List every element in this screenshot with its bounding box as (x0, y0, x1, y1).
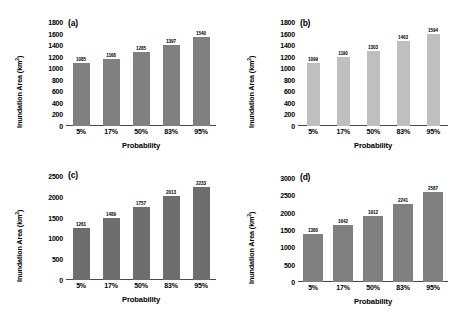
panel-b-bar (397, 41, 410, 126)
panel-d-y-tick-label: 0 (291, 279, 298, 286)
panel-d-x-axis-title: Probability (298, 297, 448, 306)
figure-four-panel-bar-charts: (a) Inundation Area (km2) 02004006008001… (0, 0, 463, 320)
panel-d-bar-value-label: 2587 (428, 186, 438, 191)
panel-c-bar (163, 196, 180, 280)
panel-d-bar-value-label: 2241 (398, 198, 408, 203)
panel-a-bar-group: 1540 (193, 22, 210, 126)
panel-c-y-tick-label: 0 (59, 277, 66, 284)
panel-c-bar-group: 2233 (193, 176, 210, 280)
panel-a-bars: 10851168128513971540 (66, 22, 216, 126)
panel-c-bar (73, 228, 90, 280)
panel-b-bar-group: 1099 (307, 22, 320, 126)
panel-a-y-tick-label: 1600 (48, 30, 66, 37)
panel-d-bar-value-label: 1642 (338, 219, 348, 224)
panel-c-x-tick-label: 5% (73, 282, 90, 289)
panel-b-bar-group: 1303 (367, 22, 380, 126)
panel-d-y-axis-title-text: Inundation Area (km (247, 217, 256, 284)
panel-b-y-tick-label: 200 (284, 111, 298, 118)
panel-d-bar-group: 2587 (423, 178, 443, 282)
panel-b-x-axis-title: Probability (298, 141, 448, 150)
panel-d-bars: 13801642191222412587 (298, 178, 448, 282)
panel-b-y-tick-label: 800 (284, 76, 298, 83)
panel-d-bar (303, 234, 323, 282)
panel-b-bar (307, 63, 320, 126)
panel-c-bar-value-label: 1261 (76, 222, 86, 227)
panel-a-bar-value-label: 1168 (106, 53, 116, 58)
panel-a-y-axis-title-text: Inundation Area (km (15, 61, 24, 128)
panel-b-bar (367, 51, 380, 126)
panel-a-bar-group: 1085 (73, 22, 90, 126)
panel-a-x-tick-labels: 5%17%50%83%95% (66, 128, 216, 135)
panel-d-bar-group: 1642 (333, 178, 353, 282)
panel-a-bar (73, 63, 90, 126)
panel-c-bar-group: 2013 (163, 176, 180, 280)
panel-c-bar-group: 1489 (103, 176, 120, 280)
panel-c-bar-value-label: 1489 (106, 212, 116, 217)
panel-b-x-tick-label: 50% (367, 128, 380, 135)
panel-d-y-axis-title: Inundation Area (km2) (246, 212, 256, 284)
panel-a-bar-value-label: 1397 (166, 39, 176, 44)
panel-b-y-axis-title-exponent: 2 (246, 58, 252, 61)
panel-a-y-tick-label: 1800 (48, 19, 66, 26)
panel-a-x-axis-title: Probability (66, 141, 216, 150)
panel-c-bar-value-label: 2013 (166, 190, 176, 195)
panel-a-y-tick-label: 1200 (48, 53, 66, 60)
panel-a-bar (163, 45, 180, 126)
panel-c-bar (133, 207, 150, 280)
panel-b-bar (337, 57, 350, 126)
panel-b-y-axis-title-text: Inundation Area (km (247, 61, 256, 128)
panel-d-bar (363, 216, 383, 282)
panel-a-plot-area: 020040060080010001200140016001800 108511… (66, 22, 216, 126)
panel-d-y-tick-label: 2000 (280, 209, 298, 216)
panel-b-x-tick-labels: 5%17%50%83%95% (298, 128, 448, 135)
panel-d-plot-area: 050010001500200025003000 138016421912224… (298, 178, 448, 282)
panel-d-bar (423, 192, 443, 282)
panel-b-y-tick-label: 0 (291, 123, 298, 130)
panel-a-y-tick-label: 600 (52, 88, 66, 95)
panel-d-bar-group: 1912 (363, 178, 383, 282)
panel-a-bar-group: 1285 (133, 22, 150, 126)
panel-a-y-tick-label: 1400 (48, 42, 66, 49)
panel-a-y-tick-label: 200 (52, 111, 66, 118)
panel-c-bar-group: 1261 (73, 176, 90, 280)
panel-b-bar-value-label: 1463 (398, 35, 408, 40)
panel-c-y-axis-title: Inundation Area (km2) (14, 210, 24, 282)
panel-b-y-tick-label: 1200 (280, 53, 298, 60)
panel-d-y-tick-label: 2500 (280, 192, 298, 199)
panel-c-bar (103, 218, 120, 280)
panel-c-bars: 12611489175720132233 (66, 176, 216, 280)
panel-c-x-tick-labels: 5%17%50%83%95% (66, 282, 216, 289)
panel-b-x-tick-label: 5% (307, 128, 320, 135)
panel-c-bar-value-label: 1757 (136, 201, 146, 206)
panel-d-bar-value-label: 1912 (368, 210, 378, 215)
panel-a-bar-value-label: 1285 (136, 46, 146, 51)
panel-c-x-axis-title: Probability (66, 295, 216, 304)
panel-b-y-axis-title-close: ) (247, 56, 256, 58)
panel-b-bar-group: 1594 (427, 22, 440, 126)
panel-d-y-tick-label: 500 (284, 261, 298, 268)
panel-a-y-tick-label: 0 (59, 123, 66, 130)
panel-b-bar-value-label: 1099 (308, 57, 318, 62)
panel-b-bar-value-label: 1594 (428, 28, 438, 33)
panel-d-x-tick-label: 95% (423, 284, 443, 291)
panel-d-x-tick-label: 5% (303, 284, 323, 291)
panel-b-bar-value-label: 1190 (338, 51, 348, 56)
panel-b: (b) Inundation Area (km2) 02004006008001… (232, 0, 463, 160)
panel-d-x-tick-label: 17% (333, 284, 353, 291)
panel-a-y-tick-label: 1000 (48, 65, 66, 72)
panel-a-bar-group: 1168 (103, 22, 120, 126)
panel-a-y-axis-title-exponent: 2 (14, 58, 20, 61)
panel-d-y-tick-label: 1000 (280, 244, 298, 251)
panel-c-x-tick-label: 50% (133, 282, 150, 289)
panel-c-plot-area: 05001000150020002500 1261148917572013223… (66, 176, 216, 280)
panel-c-y-axis-title-text: Inundation Area (km (15, 215, 24, 282)
panel-a-x-tick-label: 83% (163, 128, 180, 135)
panel-c-y-tick-label: 2500 (48, 173, 66, 180)
panel-b-bar-value-label: 1303 (368, 45, 378, 50)
panel-a-y-axis-title-close: ) (15, 56, 24, 58)
panel-a-x-tick-label: 95% (193, 128, 210, 135)
panel-c-bar-group: 1757 (133, 176, 150, 280)
panel-d-y-tick-label: 3000 (280, 175, 298, 182)
panel-b-y-tick-label: 1400 (280, 42, 298, 49)
panel-a-bar-value-label: 1540 (196, 31, 206, 36)
